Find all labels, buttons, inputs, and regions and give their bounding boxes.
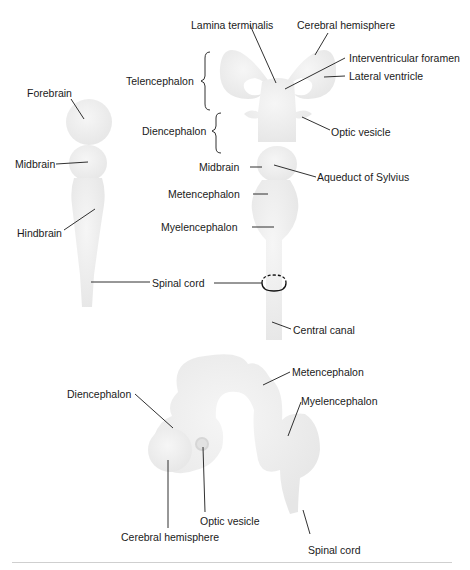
label-spinal-cord-lateral: Spinal cord [308, 544, 361, 556]
label-interventricular-foramen: Interventricular foramen [349, 52, 460, 64]
label-telencephalon: Telencephalon [126, 75, 194, 87]
label-metencephalon-lateral: Metencephalon [292, 366, 364, 378]
label-forebrain: Forebrain [27, 87, 72, 99]
label-cerebral-hemisphere: Cerebral hemisphere [297, 19, 395, 31]
lateral-view-brain [148, 354, 320, 514]
label-optic-vesicle: Optic vesicle [331, 126, 391, 138]
diagram-artwork [0, 0, 470, 570]
label-cerebral-hemisphere-lateral: Cerebral hemisphere [121, 531, 219, 543]
region-braces [201, 52, 221, 153]
label-myelencephalon-lateral: Myelencephalon [301, 395, 377, 407]
label-hindbrain: Hindbrain [17, 227, 62, 239]
label-aqueduct-of-sylvius: Aqueduct of Sylvius [317, 171, 409, 183]
three-vesicle-brain [66, 99, 112, 307]
label-midbrain: Midbrain [15, 158, 55, 170]
label-lamina-terminalis: Lamina terminalis [191, 19, 273, 31]
bottom-divider [12, 562, 452, 563]
label-spinal-cord: Spinal cord [152, 277, 205, 289]
label-diencephalon-lateral: Diencephalon [67, 388, 131, 400]
label-myelencephalon: Myelencephalon [161, 221, 237, 233]
label-diencephalon: Diencephalon [142, 125, 206, 137]
label-optic-vesicle-lateral: Optic vesicle [200, 515, 260, 527]
label-lateral-ventricle: Lateral ventricle [349, 70, 423, 82]
label-central-canal: Central canal [293, 324, 355, 336]
embryonic-brain-figure: Forebrain Midbrain Hindbrain Spinal cord… [0, 0, 470, 570]
label-metencephalon: Metencephalon [168, 188, 240, 200]
label-midbrain-5: Midbrain [199, 161, 239, 173]
